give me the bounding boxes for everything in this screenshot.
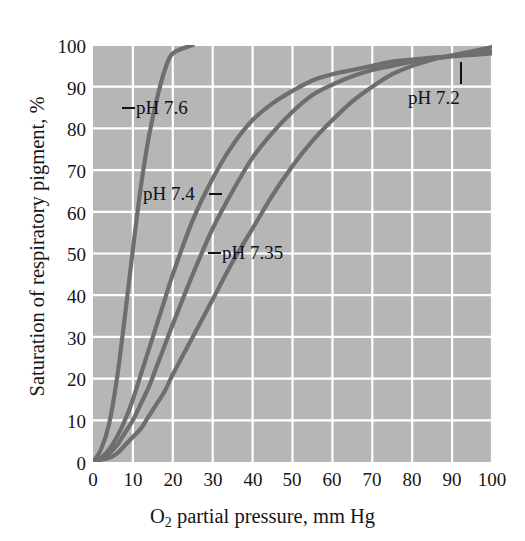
label-ph-74: pH 7.4 xyxy=(143,184,195,203)
y-tick-50: 50 xyxy=(40,245,86,264)
x-axis-title: O2 partial pressure, mm Hg xyxy=(0,505,525,528)
y-tick-60: 60 xyxy=(40,204,86,223)
y-tick-20: 20 xyxy=(40,370,86,389)
y-tick-70: 70 xyxy=(40,162,86,181)
leader-ph-76 xyxy=(122,107,135,109)
y-tick-40: 40 xyxy=(40,287,86,306)
leader-ph-735 xyxy=(208,252,221,254)
label-ph-735: pH 7.35 xyxy=(222,243,283,262)
y-tick-10: 10 xyxy=(40,412,86,431)
x-axis-title-main: O xyxy=(150,505,165,527)
x-tick-100: 100 xyxy=(469,470,515,489)
label-ph-72: pH 7.2 xyxy=(408,88,460,107)
y-tick-90: 90 xyxy=(40,79,86,98)
y-tick-100: 100 xyxy=(40,37,86,56)
label-ph-76: pH 7.6 xyxy=(136,98,188,117)
leader-ph-74 xyxy=(209,193,222,195)
x-axis-title-subscript: 2 xyxy=(165,515,172,530)
oxygen-dissociation-chart: Saturation of respiratory pigment, % 100… xyxy=(0,0,525,541)
x-axis-title-rest: partial pressure, mm Hg xyxy=(172,505,375,527)
leader-ph-72 xyxy=(460,62,462,84)
y-tick-30: 30 xyxy=(40,329,86,348)
y-tick-80: 80 xyxy=(40,120,86,139)
